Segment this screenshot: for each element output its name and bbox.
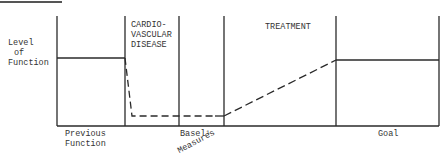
y-axis-label-line3: Function — [8, 58, 49, 68]
treatment-improvement-line — [224, 60, 336, 116]
cvd-label-line2: VASCULAR — [131, 30, 172, 40]
previous-function-label-line2: Function — [65, 139, 106, 149]
cvd-label-line3: DISEASE — [131, 40, 167, 50]
y-axis-label-line2: of — [14, 48, 24, 58]
cvd-decline-line — [125, 58, 215, 116]
cvd-label-line1: CARDIO- — [131, 20, 167, 30]
goal-label: Goal — [378, 129, 398, 139]
treatment-label: TREATMENT — [265, 22, 311, 32]
y-axis-label-line1: Level — [8, 38, 34, 48]
previous-function-label-line1: Previous — [65, 129, 106, 139]
